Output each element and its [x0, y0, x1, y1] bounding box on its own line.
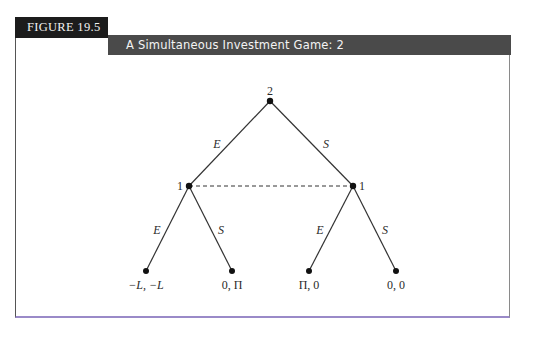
- edge-label-root-e: E: [212, 137, 221, 151]
- leaf-node: [143, 268, 149, 274]
- edge-label-root-s: S: [323, 137, 329, 151]
- leaf-node: [393, 268, 399, 274]
- edge-root-e: [189, 101, 270, 186]
- payoff-label: Π, 0: [299, 278, 320, 292]
- leaf-node: [229, 268, 235, 274]
- edge-label-right-s: S: [382, 223, 388, 237]
- edge-right-s: [353, 186, 396, 271]
- game-tree: 2 1 1 E S E S E S −L, −L 0, Π Π, 0 0, 0: [0, 0, 533, 340]
- edge-label-left-s: S: [218, 223, 224, 237]
- edge-left-s: [189, 186, 232, 271]
- left-player-label: 1: [177, 179, 183, 193]
- payoff-label: −L, −L: [128, 278, 164, 292]
- edge-root-s: [270, 101, 353, 186]
- leaf-node: [306, 268, 312, 274]
- payoff-label: 0, Π: [222, 278, 243, 292]
- edge-label-left-e: E: [152, 223, 161, 237]
- root-player-label: 2: [267, 84, 273, 98]
- root-node: [267, 98, 273, 104]
- player1-node-left: [186, 183, 192, 189]
- edge-label-right-e: E: [315, 223, 324, 237]
- player1-node-right: [350, 183, 356, 189]
- right-player-label: 1: [359, 179, 365, 193]
- payoff-label: 0, 0: [387, 278, 405, 292]
